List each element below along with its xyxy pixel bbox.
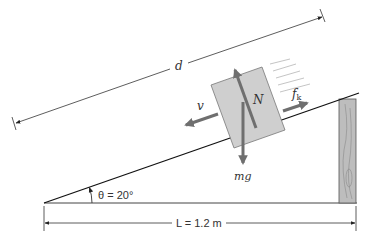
velocity-vector: [186, 114, 218, 125]
L-label: L = 1.2 m: [176, 217, 222, 229]
N-label: N: [252, 93, 264, 107]
motion-lines: [270, 59, 310, 92]
v-label: v: [197, 99, 204, 113]
friction-vector: [283, 103, 307, 111]
fk-label: fk: [291, 87, 301, 102]
theta-label: θ = 20°: [98, 189, 133, 201]
angle-arc: [89, 188, 92, 204]
wooden-post: [339, 99, 356, 203]
L-dimension: L = 1.2 m: [44, 206, 356, 231]
incline-diagram: θ = 20° d L = 1.2 m N mg v fk: [0, 0, 367, 240]
d-label: d: [175, 59, 183, 73]
mg-label: mg: [234, 170, 251, 183]
